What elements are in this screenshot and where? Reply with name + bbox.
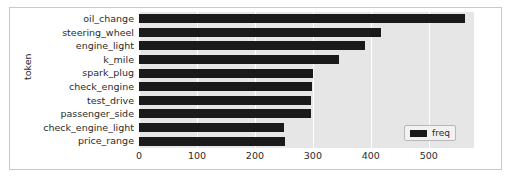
x-tick-label-0: 0 — [136, 150, 142, 161]
x-tick-label-300: 300 — [304, 150, 322, 161]
figure-canvas: token oil_changesteering_wheelengine_lig… — [0, 0, 511, 177]
y-tick-label-check_engine: check_engine — [0, 80, 134, 94]
y-tick-label-engine_light: engine_light — [0, 39, 134, 53]
x-tick-label-400: 400 — [362, 150, 380, 161]
y-tick-label-spark_plug: spark_plug — [0, 66, 134, 80]
y-tick-label-check_engine_light: check_engine_light — [0, 121, 134, 135]
y-tick-label-steering_wheel: steering_wheel — [0, 26, 134, 40]
legend-label-freq: freq — [432, 128, 450, 138]
y-tick-label-oil_change: oil_change — [0, 12, 134, 26]
legend-swatch-freq — [410, 130, 427, 137]
x-tick-label-100: 100 — [188, 150, 206, 161]
y-tick-label-passenger_side: passenger_side — [0, 107, 134, 121]
y-tick-label-test_drive: test_drive — [0, 94, 134, 108]
y-tick-label-k_mile: k_mile — [0, 53, 134, 67]
x-axis-tick-labels: 0100200300400500 — [139, 150, 474, 164]
y-tick-label-price_range: price_range — [0, 134, 134, 148]
x-tick-label-500: 500 — [420, 150, 438, 161]
legend: freq — [404, 125, 456, 141]
x-tick-label-200: 200 — [246, 150, 264, 161]
